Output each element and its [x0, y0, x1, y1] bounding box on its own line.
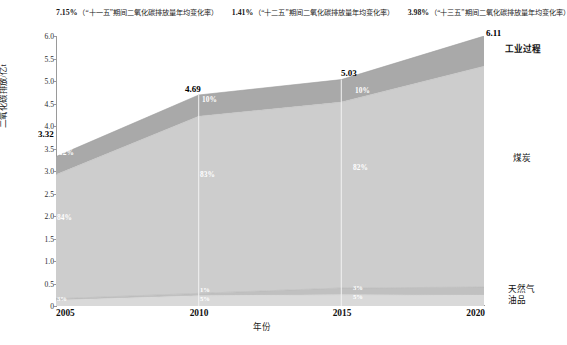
y-tick-labels: 0 0.5 1.0 1.5 2.0 2.5 3.0 3.5 4.0 4.5 5.… — [30, 36, 54, 306]
y-tick-9: 4.5 — [34, 99, 54, 108]
share-oil-2020: 4% — [492, 295, 502, 302]
y-tick-0: 0 — [34, 302, 54, 311]
y-tick-10: 5.0 — [34, 77, 54, 86]
plot-area — [56, 36, 484, 305]
share-coal-2015: 82% — [353, 163, 368, 172]
share-gas-2020: 3% — [492, 285, 502, 292]
annotation-135-desc: （“十三五”期间二氧化碳排放量年均变化率） — [430, 7, 567, 17]
y-axis-title: 二氧化碳排放/亿t — [0, 0, 8, 128]
share-coal-2020: 82% — [495, 170, 510, 179]
total-2015: 5.03 — [341, 68, 357, 78]
share-gas-2015: 3% — [353, 284, 363, 291]
y-tick-5: 2.5 — [34, 189, 54, 198]
y-tick-7: 3.5 — [34, 144, 54, 153]
annotation-115: 7.15% （“十一五”期间二氧化碳排放量年均变化率） — [56, 7, 218, 17]
x-tick-2020: 2020 — [466, 308, 485, 318]
share-industrial-2015: 10% — [355, 86, 370, 95]
x-tick-2015: 2015 — [333, 308, 352, 318]
y-tick-2: 1.0 — [34, 257, 54, 266]
annotation-135: 3.98% （“十三五”期间二氧化碳排放量年均变化率） — [408, 7, 567, 17]
legend-coal: 煤炭 — [513, 151, 531, 163]
share-industrial-2020: 11% — [490, 44, 504, 53]
legend-industrial-process: 工业过程 — [505, 42, 541, 54]
share-industrial-2010: 10% — [202, 95, 217, 104]
annotation-115-desc: （“十一五”期间二氧化碳排放量年均变化率） — [78, 7, 217, 17]
share-coal-2010: 83% — [200, 170, 215, 179]
share-coal-2005: 84% — [57, 213, 72, 222]
y-tick-4: 2.0 — [34, 212, 54, 221]
share-oil-2015: 5% — [353, 293, 363, 300]
annotation-125: 1.41% （“十二五”期间二氧化碳排放量年均变化率） — [232, 7, 394, 17]
x-tick-2010: 2010 — [190, 308, 209, 318]
annotation-135-pct: 3.98% — [408, 8, 429, 17]
stacked-area-svg — [56, 36, 484, 306]
chart-canvas: 7.15% （“十一五”期间二氧化碳排放量年均变化率） 1.41% （“十二五”… — [0, 0, 567, 345]
total-2005: 3.32 — [38, 129, 54, 139]
y-tick-6: 3.0 — [34, 167, 54, 176]
x-axis-title: 年份 — [253, 320, 271, 332]
annotation-115-pct: 7.15% — [56, 8, 77, 17]
y-tick-1: 0.5 — [34, 279, 54, 288]
share-oil-2010: 5% — [200, 295, 210, 302]
x-tick-2005: 2005 — [56, 308, 75, 318]
share-industrial-2005: 12% — [59, 148, 74, 157]
y-tick-11: 5.5 — [34, 54, 54, 63]
annotation-125-pct: 1.41% — [232, 8, 253, 17]
y-tick-3: 1.5 — [34, 234, 54, 243]
total-2020: 6.11 — [486, 28, 501, 38]
share-gas-2010: 1% — [200, 286, 210, 293]
annotation-125-desc: （“十二五”期间二氧化碳排放量年均变化率） — [254, 7, 393, 17]
share-oil-2005: 3% — [57, 295, 67, 302]
y-tick-12: 6.0 — [34, 32, 54, 41]
total-2010: 4.69 — [185, 84, 201, 94]
legend-oil-products: 油品 — [508, 293, 526, 305]
annotation-row: 7.15% （“十一五”期间二氧化碳排放量年均变化率） 1.41% （“十二五”… — [56, 7, 526, 17]
